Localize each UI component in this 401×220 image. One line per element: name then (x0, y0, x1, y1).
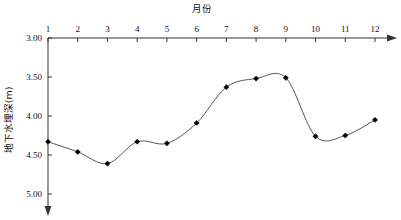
x-tick-label: 10 (311, 24, 321, 34)
data-point-marker (45, 139, 50, 144)
x-tick-label: 1 (46, 24, 51, 34)
data-point-marker (372, 117, 377, 122)
data-point-marker (343, 133, 348, 138)
x-tick-label: 6 (194, 24, 199, 34)
data-series (45, 73, 377, 166)
y-tick-label: 4.50 (26, 150, 42, 160)
x-tick-label: 8 (254, 24, 259, 34)
x-tick-label: 11 (341, 24, 350, 34)
data-point-marker (164, 141, 169, 146)
y-tick-label: 3.50 (26, 72, 42, 82)
y-axis-arrow-icon (45, 206, 52, 216)
x-tick-label: 3 (105, 24, 110, 34)
x-tick-label: 5 (165, 24, 170, 34)
data-point-marker (135, 139, 140, 144)
data-point-marker (75, 149, 80, 154)
y-axis-title: 地下水埋深(m) (3, 87, 14, 154)
x-tick-label: 12 (371, 24, 380, 34)
x-tick-label: 2 (75, 24, 80, 34)
data-point-marker (105, 161, 110, 166)
groundwater-depth-line-chart: 月份 地下水埋深(m) 123456789101112 3.003.504.00… (0, 0, 401, 220)
x-axis: 123456789101112 (46, 24, 397, 42)
chart-container: 月份 地下水埋深(m) 123456789101112 3.003.504.00… (0, 0, 401, 220)
y-tick-label: 3.00 (26, 33, 42, 43)
x-tick-label: 4 (135, 24, 140, 34)
x-tick-label: 9 (284, 24, 289, 34)
x-tick-label: 7 (224, 24, 229, 34)
y-tick-label: 4.00 (26, 111, 42, 121)
y-axis: 3.003.504.004.505.00 (26, 33, 52, 216)
y-tick-label: 5.00 (26, 189, 42, 199)
series-line (48, 73, 375, 163)
x-axis-title: 月份 (192, 3, 212, 14)
data-point-marker (253, 76, 258, 81)
x-axis-arrow-icon (387, 35, 397, 42)
